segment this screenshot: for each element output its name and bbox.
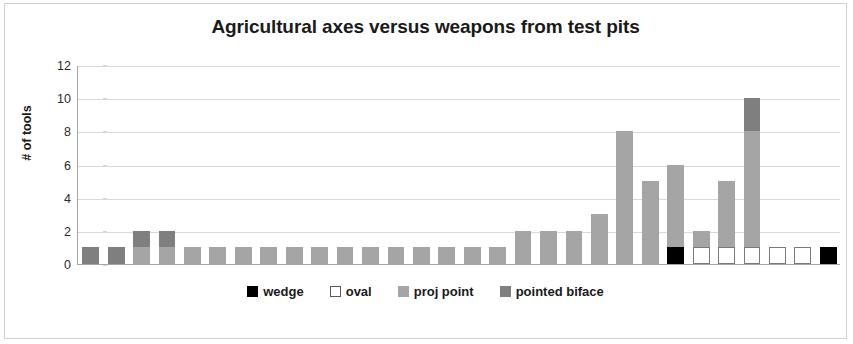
bar bbox=[769, 247, 786, 264]
bar-segment bbox=[235, 247, 252, 264]
y-axis-tick-label: 0 bbox=[35, 258, 71, 272]
bar-segment bbox=[744, 247, 761, 264]
bar bbox=[616, 131, 633, 264]
bar bbox=[209, 247, 226, 264]
bar-segment bbox=[540, 231, 557, 264]
legend-label: pointed biface bbox=[516, 284, 604, 299]
bar bbox=[260, 247, 277, 264]
bar bbox=[820, 247, 837, 264]
y-axis-tick-label: 2 bbox=[35, 225, 71, 239]
bar bbox=[489, 247, 506, 264]
bar-segment bbox=[718, 181, 735, 247]
plot-wrap bbox=[77, 66, 840, 265]
bar-segment bbox=[744, 131, 761, 247]
bar bbox=[235, 247, 252, 264]
bar bbox=[362, 247, 379, 264]
bar-segment bbox=[133, 247, 150, 264]
legend-item: wedge bbox=[247, 284, 303, 299]
bar-segment bbox=[820, 247, 837, 264]
bar-segment bbox=[413, 247, 430, 264]
bar-segment bbox=[388, 247, 405, 264]
bar-segment bbox=[464, 247, 481, 264]
legend-item: proj point bbox=[398, 284, 474, 299]
legend-swatch-wedge-icon bbox=[247, 286, 258, 297]
plot-area bbox=[77, 66, 840, 265]
bar-segment bbox=[693, 247, 710, 264]
legend-label: proj point bbox=[414, 284, 474, 299]
bar bbox=[744, 98, 761, 264]
bar-segment bbox=[489, 247, 506, 264]
bar bbox=[794, 247, 811, 264]
bar bbox=[642, 181, 659, 264]
bar bbox=[311, 247, 328, 264]
chart-title: Agricultural axes versus weapons from te… bbox=[5, 16, 846, 38]
bar bbox=[108, 247, 125, 264]
bar bbox=[464, 247, 481, 264]
bar-segment bbox=[209, 247, 226, 264]
y-axis-tick-label: 6 bbox=[35, 159, 71, 173]
legend-label: wedge bbox=[263, 284, 303, 299]
bar bbox=[515, 231, 532, 264]
bar-segment bbox=[744, 98, 761, 131]
bar-segment bbox=[591, 214, 608, 264]
bar bbox=[133, 231, 150, 264]
bar-segment bbox=[769, 247, 786, 264]
bar-segment bbox=[108, 247, 125, 264]
bar-segment bbox=[642, 181, 659, 264]
bar-segment bbox=[286, 247, 303, 264]
bar-segment bbox=[566, 231, 583, 264]
bar bbox=[286, 247, 303, 264]
bar-segment bbox=[133, 231, 150, 248]
bar-segment bbox=[667, 247, 684, 264]
bar bbox=[566, 231, 583, 264]
bar-segment bbox=[311, 247, 328, 264]
y-axis-tick-label: 8 bbox=[35, 125, 71, 139]
legend-swatch-projpoint-icon bbox=[398, 286, 409, 297]
legend-swatch-oval-icon bbox=[330, 286, 341, 297]
bar bbox=[591, 214, 608, 264]
legend-item: oval bbox=[330, 284, 372, 299]
bar bbox=[82, 247, 99, 264]
y-axis-tick-label: 10 bbox=[35, 92, 71, 106]
bar bbox=[184, 247, 201, 264]
bar-segment bbox=[515, 231, 532, 264]
bar-segment bbox=[718, 247, 735, 264]
chart-legend: wedgeovalproj pointpointed biface bbox=[5, 284, 846, 299]
bar-segment bbox=[667, 165, 684, 248]
bar bbox=[667, 165, 684, 264]
bar-segment bbox=[438, 247, 455, 264]
y-axis: 024681012 bbox=[35, 58, 71, 273]
y-axis-tick-label: 12 bbox=[35, 59, 71, 73]
bar bbox=[540, 231, 557, 264]
bar-segment bbox=[693, 231, 710, 248]
y-axis-title: # of tools bbox=[20, 73, 34, 193]
bar-segment bbox=[260, 247, 277, 264]
bar bbox=[693, 231, 710, 264]
legend-item: pointed biface bbox=[500, 284, 604, 299]
bar-segment bbox=[159, 231, 176, 248]
bar-segment bbox=[362, 247, 379, 264]
bar-segment bbox=[82, 247, 99, 264]
legend-label: oval bbox=[346, 284, 372, 299]
bar bbox=[718, 181, 735, 264]
bar-segment bbox=[184, 247, 201, 264]
chart-card: Agricultural axes versus weapons from te… bbox=[4, 3, 847, 339]
bar bbox=[337, 247, 354, 264]
bar bbox=[438, 247, 455, 264]
bar-segment bbox=[616, 131, 633, 264]
bars-group bbox=[78, 66, 840, 264]
bar-segment bbox=[794, 247, 811, 264]
legend-swatch-pointedbiface-icon bbox=[500, 286, 511, 297]
bar-segment bbox=[159, 247, 176, 264]
bar-segment bbox=[337, 247, 354, 264]
bar bbox=[388, 247, 405, 264]
y-axis-tick-label: 4 bbox=[35, 192, 71, 206]
bar bbox=[413, 247, 430, 264]
bar bbox=[159, 231, 176, 264]
